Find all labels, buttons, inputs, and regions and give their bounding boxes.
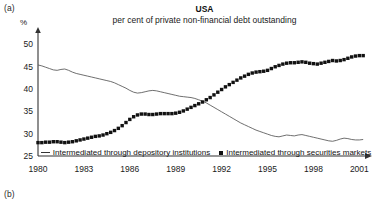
series-marker [208, 96, 211, 99]
series-marker [36, 141, 39, 144]
series-marker [63, 141, 66, 144]
series-marker [247, 73, 250, 76]
series-marker [296, 61, 299, 64]
series-marker [212, 93, 215, 96]
series-marker [270, 67, 273, 70]
x-tick-label: 1980 [29, 164, 48, 174]
series-marker [331, 59, 334, 62]
series-securities [36, 54, 365, 144]
series-marker [266, 69, 269, 72]
series-marker [40, 141, 43, 144]
series-marker [155, 112, 158, 115]
series-marker [323, 61, 326, 64]
series-marker [262, 70, 265, 73]
series-marker [361, 54, 364, 57]
series-marker [216, 91, 219, 94]
series-marker [78, 138, 81, 141]
series-marker [289, 61, 292, 64]
series-marker [186, 107, 189, 110]
series-marker [316, 62, 319, 65]
series-marker [193, 104, 196, 107]
series-marker [293, 61, 296, 64]
line-swatch-icon [41, 152, 50, 153]
series-marker [335, 59, 338, 62]
series-marker [178, 111, 181, 114]
series-marker [140, 112, 143, 115]
series-marker [94, 135, 97, 138]
series-depository [38, 65, 363, 141]
series-marker [163, 112, 166, 115]
series-marker [308, 62, 311, 65]
series-marker [67, 140, 70, 143]
legend-item-depository: Intermediated through depository institu… [41, 148, 210, 157]
series-line-path [38, 65, 363, 141]
series-marker [101, 133, 104, 136]
series-marker [312, 62, 315, 65]
series-marker [109, 131, 112, 134]
series-marker [239, 76, 242, 79]
x-tick-label: 1989 [166, 164, 185, 174]
chart-legend: Intermediated through depository institu… [41, 147, 371, 158]
series-marker [354, 54, 357, 57]
series-marker [342, 58, 345, 61]
series-marker [346, 57, 349, 60]
series-marker [136, 113, 139, 116]
y-tick-label: 50 [24, 39, 34, 49]
y-tick-label: 45 [24, 62, 34, 72]
series-marker [75, 139, 78, 142]
series-marker [201, 100, 204, 103]
series-marker [143, 112, 146, 115]
y-tick-label: 40 [24, 84, 34, 94]
legend-label-depository: Intermediated through depository institu… [53, 148, 210, 157]
series-marker [174, 111, 177, 114]
series-marker [197, 102, 200, 105]
x-tick-label: 1998 [304, 164, 323, 174]
series-marker [281, 62, 284, 65]
series-marker [251, 71, 254, 74]
series-marker [59, 140, 62, 143]
series-marker [44, 140, 47, 143]
series-marker [170, 112, 173, 115]
series-marker [147, 113, 150, 116]
x-tick-label: 1995 [258, 164, 277, 174]
series-marker [86, 136, 89, 139]
series-marker [358, 54, 361, 57]
series-marker [205, 98, 208, 101]
series-marker [350, 55, 353, 58]
series-marker [113, 129, 116, 132]
series-marker [277, 64, 280, 67]
series-marker [120, 124, 123, 127]
y-tick-label: 30 [24, 129, 34, 139]
series-marker [319, 62, 322, 65]
series-marker [224, 85, 227, 88]
legend-item-securities: Intermediated through securities markets [219, 148, 371, 157]
x-tick-label: 1992 [212, 164, 231, 174]
series-marker [82, 137, 85, 140]
series-marker [55, 140, 58, 143]
square-swatch-icon [219, 151, 223, 155]
series-marker [273, 65, 276, 68]
series-marker [339, 59, 342, 62]
series-marker [105, 132, 108, 135]
figure-panel-a: (a) (b) USA per cent of private non-fina… [0, 0, 381, 207]
x-tick-label: 2001 [350, 164, 369, 174]
series-marker [166, 112, 169, 115]
series-marker [52, 140, 55, 143]
y-axis-arrow-icon [35, 27, 41, 33]
series-marker [151, 113, 154, 116]
series-marker [71, 140, 74, 143]
series-marker [235, 78, 238, 81]
series-marker [128, 118, 131, 121]
series-marker [124, 121, 127, 124]
series-marker [258, 70, 261, 73]
x-tick-label: 1983 [74, 164, 93, 174]
series-marker [117, 127, 120, 130]
series-marker [132, 115, 135, 118]
y-axis-ticks: 253035404550 [24, 39, 34, 161]
series-marker [285, 62, 288, 65]
series-marker [327, 60, 330, 63]
chart-plot-area: 253035404550 198019831986198919921995199… [0, 0, 381, 207]
series-marker [254, 70, 257, 73]
x-tick-label: 1986 [120, 164, 139, 174]
series-marker [98, 134, 101, 137]
